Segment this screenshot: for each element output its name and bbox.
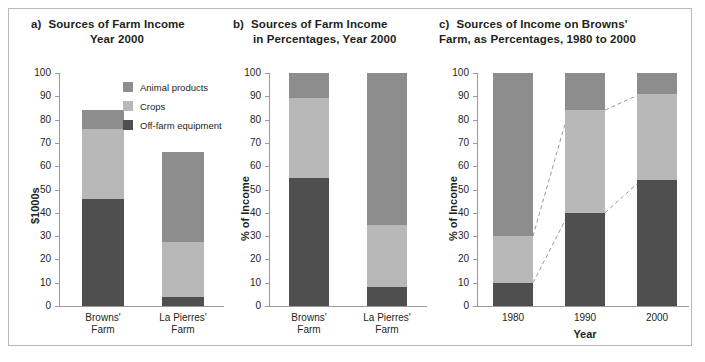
y-tick-mark [265,143,269,144]
x-label-line1: Browns' [85,312,120,323]
y-tick-mark [55,73,59,74]
x-label-1980: 1980 [483,312,543,324]
segment-animal-products [367,73,407,225]
y-tick-mark [265,259,269,260]
segment-crops [493,236,533,283]
bar-browns-farm[interactable] [289,73,329,306]
y-tick-label: 40 [27,208,51,218]
bar-la-pierres-farm[interactable] [162,152,204,306]
x-label-line1: La Pierres' [363,312,411,323]
segment-crops [289,98,329,178]
y-tick-label: 10 [27,278,51,288]
y-tick-label: 10 [237,278,261,288]
y-tick-label: 0 [27,301,51,311]
legend-label: Off-farm equipment [140,120,222,131]
bar-1980[interactable] [493,73,533,306]
x-label-la-pierres-farm: La Pierres' Farm [151,312,215,335]
panel-c: c)Sources of Income on Browns' Farm, as … [427,9,693,347]
y-tick-label: 90 [237,91,261,101]
legend-label: Animal products [140,82,208,93]
y-tick-label: 50 [27,185,51,195]
legend-swatch-icon [123,82,133,92]
x-label-1990: 1990 [555,312,615,324]
x-label-line1: 1980 [502,312,524,323]
x-label-line1: 1990 [574,312,596,323]
segment-animal-products [162,152,204,242]
y-tick-mark [265,120,269,121]
y-tick-label: 90 [27,91,51,101]
y-tick-mark [265,73,269,74]
y-tick-mark [55,143,59,144]
y-tick-mark [55,259,59,260]
bar-1990[interactable] [565,73,605,306]
y-tick-mark [55,283,59,284]
x-label-line2: Farm [297,324,320,335]
y-tick-mark [265,283,269,284]
panel-c-x-axis-title: Year [527,328,643,340]
x-label-2000: 2000 [627,312,687,324]
y-tick-mark [55,120,59,121]
segment-crops [637,94,677,180]
y-tick-label: 70 [27,138,51,148]
segment-animal-products [565,73,605,110]
segment-crops [82,129,124,199]
segment-off-farm-equipment [162,297,204,306]
legend-swatch-icon [123,120,133,130]
y-tick-mark [265,190,269,191]
segment-off-farm-equipment [637,180,677,306]
x-label-la-pierres-farm: La Pierres' Farm [355,312,419,335]
segment-animal-products [637,73,677,94]
y-tick-mark [55,213,59,214]
x-label-browns-farm: Browns' Farm [279,312,339,335]
y-tick-label: 0 [237,301,261,311]
segment-animal-products [493,73,533,236]
y-tick-mark [55,166,59,167]
bar-2000[interactable] [637,73,677,306]
y-tick-label: 20 [237,254,261,264]
panel-b-plot: % of Income 1009080706050403020100 Brown… [219,9,434,347]
y-tick-mark [265,306,269,307]
bar-la-pierres-farm[interactable] [367,73,407,306]
y-tick-mark [265,96,269,97]
x-label-line2: Farm [91,324,114,335]
y-tick-label: 30 [27,231,51,241]
y-tick-mark [265,166,269,167]
y-tick-mark [55,96,59,97]
y-tick-label: 40 [237,208,261,218]
segment-animal-products [82,110,124,129]
y-tick-label: 80 [27,115,51,125]
x-label-line1: Browns' [291,312,326,323]
y-tick-mark [55,190,59,191]
segment-off-farm-equipment [82,199,124,306]
panel-b: b)Sources of Farm Income in Percentages,… [219,9,434,347]
segment-off-farm-equipment [493,283,533,306]
y-tick-mark [55,306,59,307]
y-tick-label: 60 [237,161,261,171]
x-label-line2: Farm [375,324,398,335]
y-tick-mark [55,236,59,237]
panel-b-x-axis [269,306,427,307]
segment-crops [162,242,204,297]
panel-c-plot: % of Income 1009080706050403020100 [427,9,693,347]
figure-frame: a)Sources of Farm Income Year 2000 $1000… [8,8,692,346]
panel-a: a)Sources of Farm Income Year 2000 $1000… [9,9,237,347]
y-tick-mark [265,213,269,214]
y-tick-label: 100 [237,68,261,78]
segment-off-farm-equipment [565,213,605,306]
legend-label: Crops [140,101,165,112]
bar-browns-farm[interactable] [82,110,124,306]
segment-crops [367,225,407,288]
x-label-line1: La Pierres' [159,312,207,323]
y-tick-label: 50 [237,185,261,195]
x-label-line1: 2000 [646,312,668,323]
segment-crops [565,110,605,213]
y-tick-label: 30 [237,231,261,241]
y-tick-mark [265,236,269,237]
panel-a-y-axis [59,73,60,307]
panel-a-plot: $1000s 1009080706050403020100 Browns' Fa… [9,9,237,347]
panel-a-x-axis [59,306,224,307]
legend-swatch-icon [123,101,133,111]
panel-b-y-axis [269,73,270,307]
segment-off-farm-equipment [367,287,407,306]
x-label-line2: Farm [171,324,194,335]
